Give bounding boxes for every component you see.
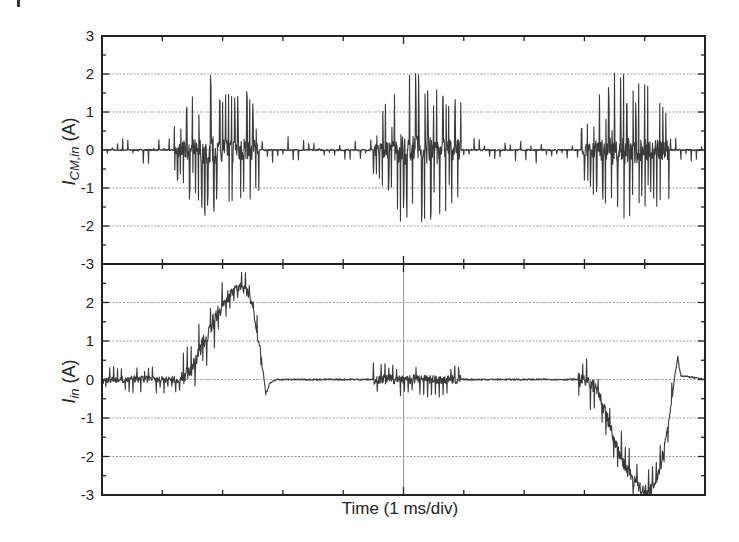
bottom-ylabel-sub: in [67,388,82,398]
top-ylabel-main: I [59,180,79,185]
top-y-axis-label: ICM,in (A) [59,72,82,232]
x-axis-label: Time (1 ms/div) [300,499,500,519]
chart-canvas [0,0,739,542]
y-tick-label: -3 [64,256,94,272]
bottom-ylabel-unit: (A) [59,359,79,388]
y-tick-label: 3 [64,28,94,44]
top-ylabel-sub: CM,in [67,147,82,181]
y-tick-label: 2 [64,295,94,311]
y-tick-label: -2 [64,449,94,465]
top-ylabel-unit: (A) [59,118,79,147]
top-trace [102,73,705,221]
bottom-ylabel-main: I [59,399,79,404]
y-tick-label: -3 [64,487,94,503]
bottom-y-axis-label: Iin (A) [59,322,82,442]
